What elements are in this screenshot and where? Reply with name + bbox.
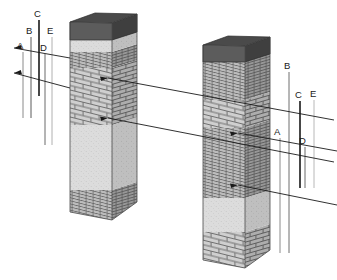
left-label-C: C [34, 8, 41, 19]
right-column-band-thin-brick-main [203, 120, 270, 198]
right-label-C: C [295, 89, 302, 100]
left-label-A: A [17, 40, 24, 51]
right-labels: A B C D E [274, 60, 316, 146]
left-label-stems [23, 20, 52, 145]
left-column-band-brick-main [70, 60, 137, 125]
left-labels: A B C D E [17, 8, 53, 53]
right-label-D: D [299, 135, 306, 146]
left-label-B: B [26, 25, 32, 36]
right-label-A: A [274, 126, 281, 137]
column-diagram-svg: A B C D E A B C D E [0, 0, 337, 280]
left-label-D: D [40, 42, 47, 53]
left-column-band-stone-lower [70, 117, 137, 190]
right-label-B: B [284, 60, 290, 71]
right-column [203, 36, 270, 268]
leader-left-lower [14, 73, 70, 88]
left-column [70, 13, 137, 220]
diagram-canvas: A B C D E A B C D E [0, 0, 337, 280]
right-label-E: E [310, 88, 316, 99]
left-label-E: E [47, 25, 53, 36]
